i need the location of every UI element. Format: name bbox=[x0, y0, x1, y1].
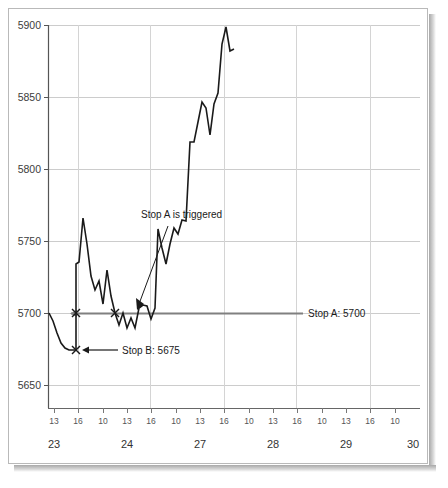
x-tick-label-12: 13 bbox=[341, 416, 351, 426]
y-gridlines bbox=[48, 26, 420, 386]
stop-markers bbox=[72, 309, 119, 354]
y-tick-labels: 5900 5850 5800 5750 5700 5650 bbox=[18, 19, 42, 391]
y-tick-label-5650: 5650 bbox=[18, 379, 42, 391]
stop-a-triggered-leader-line bbox=[139, 226, 168, 304]
y-tick-label-5750: 5750 bbox=[18, 235, 42, 247]
window-shadow-bottom bbox=[14, 465, 436, 472]
x-day-label-30: 30 bbox=[407, 438, 419, 450]
x-tick-label-13: 16 bbox=[365, 416, 375, 426]
stop-b-arrowhead bbox=[82, 347, 89, 354]
x-tick-label-10: 16 bbox=[292, 416, 302, 426]
x-day-label-29: 29 bbox=[340, 438, 352, 450]
x-day-label-24: 24 bbox=[121, 438, 133, 450]
x-tick-label-4: 16 bbox=[146, 416, 156, 426]
stop-b-level-label: Stop B: 5675 bbox=[122, 345, 180, 356]
x-tick-label-2: 10 bbox=[98, 416, 108, 426]
x-day-label-28: 28 bbox=[267, 438, 279, 450]
x-tick-label-6: 13 bbox=[195, 416, 205, 426]
chart-window: 5900 5850 5800 5750 5700 5650 bbox=[0, 0, 448, 488]
x-tick-label-5: 10 bbox=[171, 416, 181, 426]
x-tick-label-9: 13 bbox=[268, 416, 278, 426]
price-series-line bbox=[49, 27, 234, 350]
x-tick-label-11: 10 bbox=[317, 416, 327, 426]
x-tick-labels: 13 16 10 13 16 10 13 16 10 13 16 10 13 1… bbox=[49, 416, 400, 426]
x-tick-label-0: 13 bbox=[49, 416, 59, 426]
stop-a-level-label: Stop A: 5700 bbox=[308, 308, 366, 319]
x-tick-label-1: 16 bbox=[73, 416, 83, 426]
y-tick-marks bbox=[44, 26, 48, 386]
x-tick-label-7: 16 bbox=[219, 416, 229, 426]
price-line-chart: 5900 5850 5800 5750 5700 5650 bbox=[8, 8, 428, 464]
x-tick-label-14: 10 bbox=[390, 416, 400, 426]
y-tick-label-5850: 5850 bbox=[18, 91, 42, 103]
y-tick-label-5800: 5800 bbox=[18, 163, 42, 175]
x-day-labels: 23 24 27 28 29 30 bbox=[48, 438, 419, 450]
x-day-label-27: 27 bbox=[194, 438, 206, 450]
x-tick-label-8: 10 bbox=[244, 416, 254, 426]
x-day-label-23: 23 bbox=[48, 438, 60, 450]
y-tick-label-5900: 5900 bbox=[18, 19, 42, 31]
y-tick-label-5700: 5700 bbox=[18, 307, 42, 319]
stop-a-triggered-label: Stop A is triggered bbox=[141, 209, 222, 220]
window-shadow-right bbox=[429, 14, 436, 470]
x-tick-label-3: 13 bbox=[122, 416, 132, 426]
